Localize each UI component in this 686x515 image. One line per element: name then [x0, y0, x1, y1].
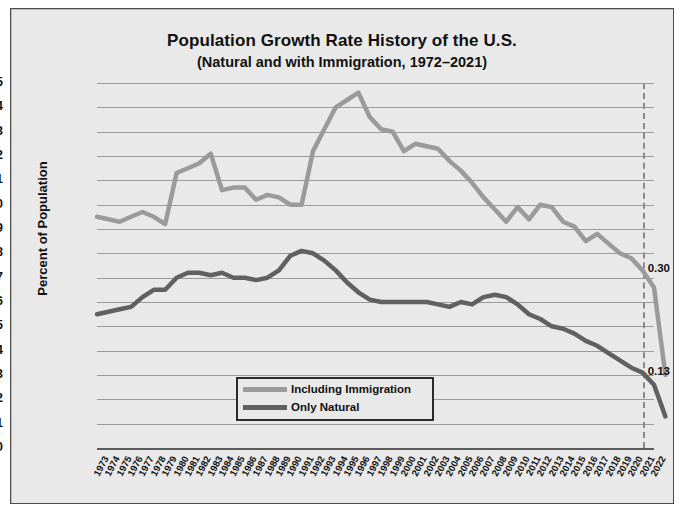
legend-label-including-immigration: Including Immigration: [291, 383, 411, 395]
y-tick-1.5: 1.5: [0, 75, 3, 89]
y-tick-0.3: 0.3: [0, 367, 3, 381]
gridline-0.0: [97, 448, 654, 450]
y-tick-0.1: 0.1: [0, 416, 3, 430]
y-tick-0.9: 0.9: [0, 221, 3, 235]
y-tick-1.3: 1.3: [0, 124, 3, 138]
legend-label-only-natural: Only Natural: [291, 401, 359, 413]
y-tick-0.4: 0.4: [0, 343, 3, 357]
y-tick-0.2: 0.2: [0, 391, 3, 405]
end-value-natural: 0.13: [648, 365, 670, 377]
legend-swatch-only-natural: [243, 405, 287, 410]
y-tick-1.1: 1.1: [0, 172, 3, 186]
y-tick-1.4: 1.4: [0, 99, 3, 113]
legend: Including Immigration Only Natural: [236, 377, 434, 421]
chart-subtitle: (Natural and with Immigration, 1972–2021…: [11, 54, 673, 70]
y-tick-0.8: 0.8: [0, 245, 3, 259]
y-tick-0.0: 0.0: [0, 440, 3, 454]
y-axis-label: Percent of Population: [35, 139, 50, 319]
y-tick-0.7: 0.7: [0, 270, 3, 284]
y-tick-0.5: 0.5: [0, 318, 3, 332]
end-value-immigration: 0.30: [648, 262, 670, 274]
line-including-immigration: [97, 93, 665, 375]
legend-item-including-immigration: Including Immigration: [243, 383, 411, 395]
y-tick-0.6: 0.6: [0, 294, 3, 308]
legend-item-only-natural: Only Natural: [243, 401, 359, 413]
legend-swatch-including-immigration: [243, 387, 287, 392]
chart-frame: Population Growth Rate History of the U.…: [10, 8, 674, 504]
y-tick-1.2: 1.2: [0, 148, 3, 162]
y-tick-1.0: 1.0: [0, 197, 3, 211]
chart-title: Population Growth Rate History of the U.…: [11, 31, 673, 51]
